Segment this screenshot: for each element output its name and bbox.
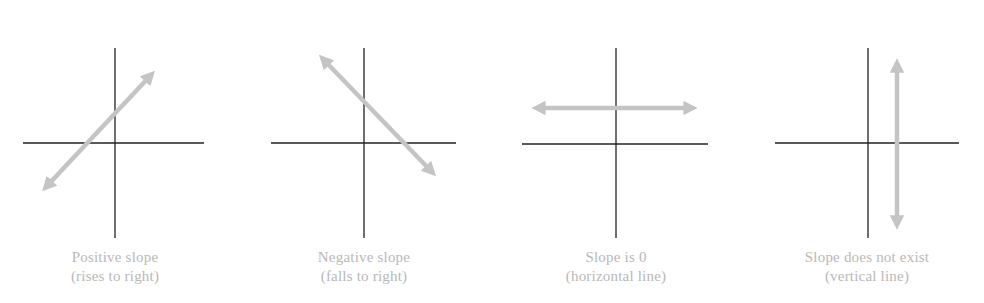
rising-line-arrow [46,75,151,187]
panel-undefined-slope [775,48,959,238]
caption-positive-slope: Positive slope (rises to right) [5,248,225,286]
caption-undefined-slope: Slope does not exist (vertical line) [757,248,977,286]
falling-line-arrow [323,59,432,172]
caption-subtitle: (falls to right) [254,267,474,286]
panel-positive-slope [23,48,204,238]
caption-negative-slope: Negative slope (falls to right) [254,248,474,286]
caption-title: Slope is 0 [506,248,726,267]
caption-subtitle: (vertical line) [757,267,977,286]
caption-subtitle: (horizontal line) [506,267,726,286]
panel-negative-slope [271,48,456,238]
caption-zero-slope: Slope is 0 (horizontal line) [506,248,726,286]
panel-zero-slope [522,48,708,238]
caption-title: Slope does not exist [757,248,977,267]
caption-title: Positive slope [5,248,225,267]
caption-subtitle: (rises to right) [5,267,225,286]
caption-title: Negative slope [254,248,474,267]
